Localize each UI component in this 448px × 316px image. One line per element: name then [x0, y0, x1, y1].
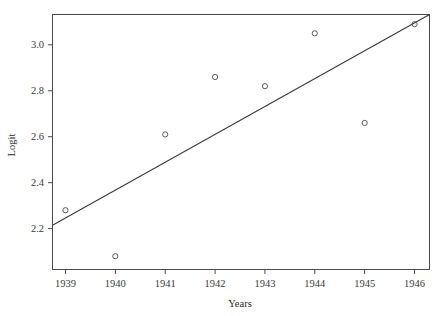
data-point-1944: [312, 31, 317, 36]
regression-line: [53, 15, 430, 226]
y-tick-label-2.2: 2.2: [31, 223, 44, 234]
data-point-1941: [163, 132, 168, 137]
data-point-1945: [362, 120, 367, 125]
x-tick-label-1942: 1942: [205, 278, 226, 289]
y-axis-title: Logit: [6, 134, 17, 157]
y-axis-tick-labels: 3.0 2.8 2.6 2.4 2.2: [31, 39, 45, 234]
x-axis-tick-labels: 1939 1940 1941 1942 1943 1944 1945 1946: [55, 278, 425, 289]
data-point-1942: [212, 74, 217, 79]
y-tick-label-2.4: 2.4: [31, 177, 45, 188]
y-axis-ticks: [48, 45, 53, 229]
x-tick-label-1944: 1944: [304, 278, 326, 289]
x-tick-label-1939: 1939: [55, 278, 76, 289]
y-tick-label-2.6: 2.6: [31, 131, 44, 142]
data-points-group: [63, 22, 417, 259]
x-tick-label-1946: 1946: [404, 278, 425, 289]
data-point-1943: [262, 84, 267, 89]
x-tick-label-1940: 1940: [105, 278, 126, 289]
y-tick-label-2.8: 2.8: [31, 85, 44, 96]
x-tick-label-1943: 1943: [254, 278, 275, 289]
plot-frame: [53, 15, 430, 270]
x-axis-ticks: [65, 270, 414, 275]
x-axis-title: Years: [228, 298, 251, 309]
x-tick-label-1945: 1945: [354, 278, 375, 289]
scatter-plot-svg: 3.0 2.8 2.6 2.4 2.2 1939 1940 1941 1942 …: [0, 0, 448, 316]
x-tick-label-1941: 1941: [155, 278, 176, 289]
chart-figure: 3.0 2.8 2.6 2.4 2.2 1939 1940 1941 1942 …: [0, 0, 448, 316]
y-tick-label-3.0: 3.0: [31, 39, 44, 50]
data-point-1939: [63, 208, 68, 213]
data-point-1940: [113, 254, 118, 259]
